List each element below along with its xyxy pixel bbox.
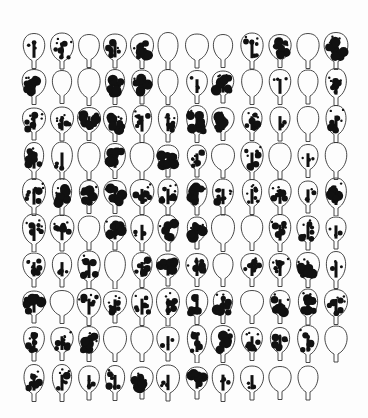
leaf-specimen [47, 140, 77, 180]
leaf-drawing [293, 140, 323, 180]
leaf-drawing [100, 323, 130, 363]
leaf-specimen [293, 103, 323, 143]
leaf-drawing [208, 30, 238, 70]
leaf-specimen [208, 103, 238, 143]
leaf-drawing [208, 66, 238, 106]
leaf-specimen-sheet [0, 0, 368, 418]
leaf-drawing [293, 103, 323, 143]
leaf-drawing [265, 323, 295, 363]
leaf-specimen [237, 66, 267, 106]
leaf-specimen [265, 249, 295, 289]
leaf-drawing [47, 66, 77, 106]
leaf-drawing [47, 30, 77, 70]
leaf-specimen [19, 286, 49, 326]
leaf-drawing [265, 286, 295, 326]
leaf-specimen [100, 66, 130, 106]
leaf-drawing [100, 176, 130, 216]
leaf-drawing [293, 176, 323, 216]
leaf-specimen [153, 140, 183, 180]
leaf-drawing [19, 140, 49, 180]
leaf-drawing [47, 362, 77, 402]
leaf-specimen [265, 323, 295, 363]
leaf-drawing [265, 140, 295, 180]
leaf-specimen [321, 176, 351, 216]
leaf-drawing [265, 30, 295, 70]
leaf-specimen [293, 30, 323, 70]
leaf-drawing [19, 30, 49, 70]
leaf-specimen [265, 103, 295, 143]
leaf-drawing [265, 66, 295, 106]
leaf-specimen [293, 286, 323, 326]
leaf-specimen [265, 212, 295, 252]
leaf-drawing [237, 323, 267, 363]
leaf-drawing [237, 66, 267, 106]
leaf-drawing [19, 103, 49, 143]
leaf-specimen [19, 103, 49, 143]
leaf-specimen [208, 286, 238, 326]
leaf-specimen [19, 249, 49, 289]
leaf-specimen [47, 249, 77, 289]
leaf-drawing [153, 212, 183, 252]
leaf-specimen [265, 66, 295, 106]
leaf-drawing [47, 249, 77, 289]
leaf-specimen [100, 140, 130, 180]
leaf-specimen [208, 176, 238, 216]
leaf-drawing [208, 103, 238, 143]
leaf-specimen [237, 323, 267, 363]
leaf-specimen [265, 176, 295, 216]
leaf-drawing [208, 140, 238, 180]
leaf-specimen [47, 212, 77, 252]
leaf-drawing [293, 30, 323, 70]
leaf-specimen [265, 362, 295, 402]
leaf-drawing [19, 66, 49, 106]
leaf-drawing [293, 323, 323, 363]
leaf-drawing [100, 30, 130, 70]
leaf-specimen [293, 249, 323, 289]
leaf-specimen [321, 249, 351, 289]
leaf-drawing [153, 103, 183, 143]
leaf-specimen [47, 176, 77, 216]
leaf-specimen [100, 286, 130, 326]
leaf-specimen [153, 176, 183, 216]
leaf-drawing [208, 249, 238, 289]
leaf-drawing [208, 323, 238, 363]
leaf-drawing [19, 176, 49, 216]
leaf-drawing [47, 286, 77, 326]
leaf-drawing [100, 66, 130, 106]
leaf-drawing [321, 249, 351, 289]
leaf-drawing [237, 176, 267, 216]
leaf-specimen [321, 103, 351, 143]
leaf-drawing [237, 212, 267, 252]
leaf-specimen [237, 212, 267, 252]
leaf-drawing [265, 103, 295, 143]
leaf-drawing [237, 362, 267, 402]
leaf-drawing [237, 140, 267, 180]
leaf-drawing [19, 286, 49, 326]
leaf-specimen [208, 362, 238, 402]
leaf-specimen [153, 323, 183, 363]
leaf-specimen [47, 362, 77, 402]
leaf-specimen [19, 212, 49, 252]
leaf-drawing [265, 176, 295, 216]
leaf-specimen [293, 176, 323, 216]
leaf-specimen [208, 212, 238, 252]
leaf-drawing [208, 212, 238, 252]
leaf-drawing [265, 249, 295, 289]
leaf-specimen [153, 249, 183, 289]
leaf-drawing [237, 286, 267, 326]
leaf-drawing [293, 362, 323, 402]
leaf-drawing [153, 362, 183, 402]
leaf-specimen [237, 362, 267, 402]
leaf-drawing [321, 176, 351, 216]
leaf-drawing [100, 286, 130, 326]
leaf-specimen [321, 286, 351, 326]
leaf-drawing [321, 103, 351, 143]
leaf-drawing [47, 323, 77, 363]
leaf-drawing [100, 249, 130, 289]
leaf-specimen [293, 66, 323, 106]
leaf-drawing [293, 249, 323, 289]
leaf-drawing [100, 140, 130, 180]
leaf-specimen [100, 30, 130, 70]
leaf-specimen [265, 140, 295, 180]
leaf-specimen [100, 249, 130, 289]
